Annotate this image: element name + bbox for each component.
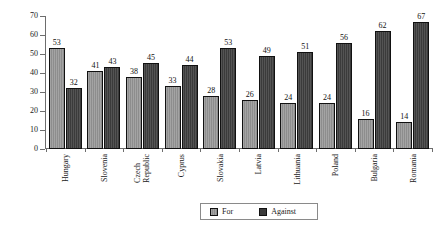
category-label-cell: Bulgaria (355, 152, 394, 214)
category-label: Lithuania (293, 154, 302, 185)
category-label-line: Poland (331, 154, 340, 176)
bar-for: 16 (358, 119, 374, 149)
y-axis-tick-label-text: 0 (16, 145, 38, 153)
bar-value-label: 53 (53, 38, 61, 47)
y-axis-tick-label: 0 (10, 145, 38, 153)
y-axis-tick (40, 16, 45, 17)
y-axis-tick (40, 35, 45, 36)
category-label-cell: Hungary (46, 152, 85, 214)
y-axis-tick-label-text: 50 (16, 50, 38, 58)
bar-against: 45 (143, 63, 159, 149)
legend-label: For (222, 207, 233, 216)
y-axis-tick-label-text: 70 (16, 12, 38, 20)
y-axis-tick-label: 30 (10, 88, 38, 96)
bar-against: 62 (375, 31, 391, 149)
bar-value-label: 24 (284, 93, 292, 102)
bar-group: 3845 (123, 16, 162, 149)
category-label-cell: Cyprus (162, 152, 201, 214)
bar-for: 38 (126, 77, 142, 149)
bar-against: 53 (220, 48, 236, 149)
bar-value-label: 16 (362, 109, 370, 118)
category-label-cell: Romania (393, 152, 432, 214)
bar-group: 4143 (85, 16, 124, 149)
category-label-line: Cyprus (177, 154, 186, 177)
x-axis-tick (432, 148, 433, 152)
legend-swatch-for-icon (210, 208, 218, 216)
y-axis-tick-label-text: 40 (16, 69, 38, 77)
bar-value-label: 44 (186, 55, 194, 64)
bar-group: 2853 (200, 16, 239, 149)
category-label-line: Lithuania (293, 154, 302, 185)
bar-value-label: 53 (224, 38, 232, 47)
bar-value-label: 45 (147, 53, 155, 62)
bar-against: 56 (336, 43, 352, 149)
category-label: Slovakia (216, 154, 225, 182)
category-label-line: Republic (142, 154, 151, 183)
y-axis-tick-label-text: 20 (16, 107, 38, 115)
bar-group: 2456 (316, 16, 355, 149)
bar-for: 33 (165, 86, 181, 149)
y-axis-tick-label: 70 (10, 12, 38, 20)
y-axis-tick-label: 10 (10, 126, 38, 134)
bar-value-label: 28 (207, 86, 215, 95)
y-axis-tick-label: 50 (10, 50, 38, 58)
category-label-line: Slovakia (216, 154, 225, 182)
bar-for: 24 (280, 103, 296, 149)
category-label: CzechRepublic (133, 154, 151, 183)
bar-group: 5332 (46, 16, 85, 149)
bar-value-label: 33 (169, 76, 177, 85)
y-axis-tick (40, 130, 45, 131)
bar-group: 2451 (278, 16, 317, 149)
bar-value-label: 24 (323, 93, 331, 102)
bar-value-label: 51 (301, 42, 309, 51)
category-label: Cyprus (177, 154, 186, 177)
y-axis-tick-label-text: 30 (16, 88, 38, 96)
bar-against: 44 (182, 65, 198, 149)
chart-legend: ForAgainst (200, 203, 318, 220)
bar-for: 26 (242, 100, 258, 149)
y-axis-tick (40, 92, 45, 93)
bar-value-label: 62 (379, 21, 387, 30)
bar-value-label: 14 (400, 112, 408, 121)
bar-against: 43 (104, 67, 120, 149)
y-axis-tick (40, 149, 45, 150)
category-label-line: Bulgaria (370, 154, 379, 182)
category-label: Poland (331, 154, 340, 176)
category-label-cell: Slovenia (85, 152, 124, 214)
bar-group: 3344 (162, 16, 201, 149)
bar-groups: 5332414338453344285326492451245616621467 (46, 16, 432, 149)
bar-against: 67 (413, 22, 429, 149)
bar-value-label: 67 (417, 12, 425, 21)
y-axis-tick-label: 60 (10, 31, 38, 39)
bar-group: 2649 (239, 16, 278, 149)
legend-item-against: Against (259, 207, 296, 216)
bar-for: 41 (87, 71, 103, 149)
category-label: Slovenia (100, 154, 109, 182)
category-label: Hungary (61, 154, 70, 182)
y-axis-tick-label: 40 (10, 69, 38, 77)
category-label-line: Romania (409, 154, 418, 183)
category-label-cell: CzechRepublic (123, 152, 162, 214)
bar-value-label: 56 (340, 33, 348, 42)
bar-group: 1662 (355, 16, 394, 149)
bar-for: 53 (49, 48, 65, 149)
y-axis-tick-label-text: 10 (16, 126, 38, 134)
bar-value-label: 26 (246, 90, 254, 99)
y-axis-tick (40, 111, 45, 112)
bar-value-label: 43 (108, 57, 116, 66)
y-axis-tick-label: 20 (10, 107, 38, 115)
bar-value-label: 32 (70, 78, 78, 87)
category-label-line: Hungary (61, 154, 70, 182)
bar-for: 14 (396, 122, 412, 149)
y-axis-tick-label-text: 60 (16, 31, 38, 39)
category-label-cell: Poland (316, 152, 355, 214)
bar-group: 1467 (393, 16, 432, 149)
bar-value-label: 49 (263, 46, 271, 55)
legend-item-for: For (210, 207, 233, 216)
legend-label: Against (271, 207, 296, 216)
bar-value-label: 38 (130, 67, 138, 76)
bar-for: 24 (319, 103, 335, 149)
y-axis-tick (40, 54, 45, 55)
category-label-line: Latvia (254, 154, 263, 174)
category-label-line: Slovenia (100, 154, 109, 182)
